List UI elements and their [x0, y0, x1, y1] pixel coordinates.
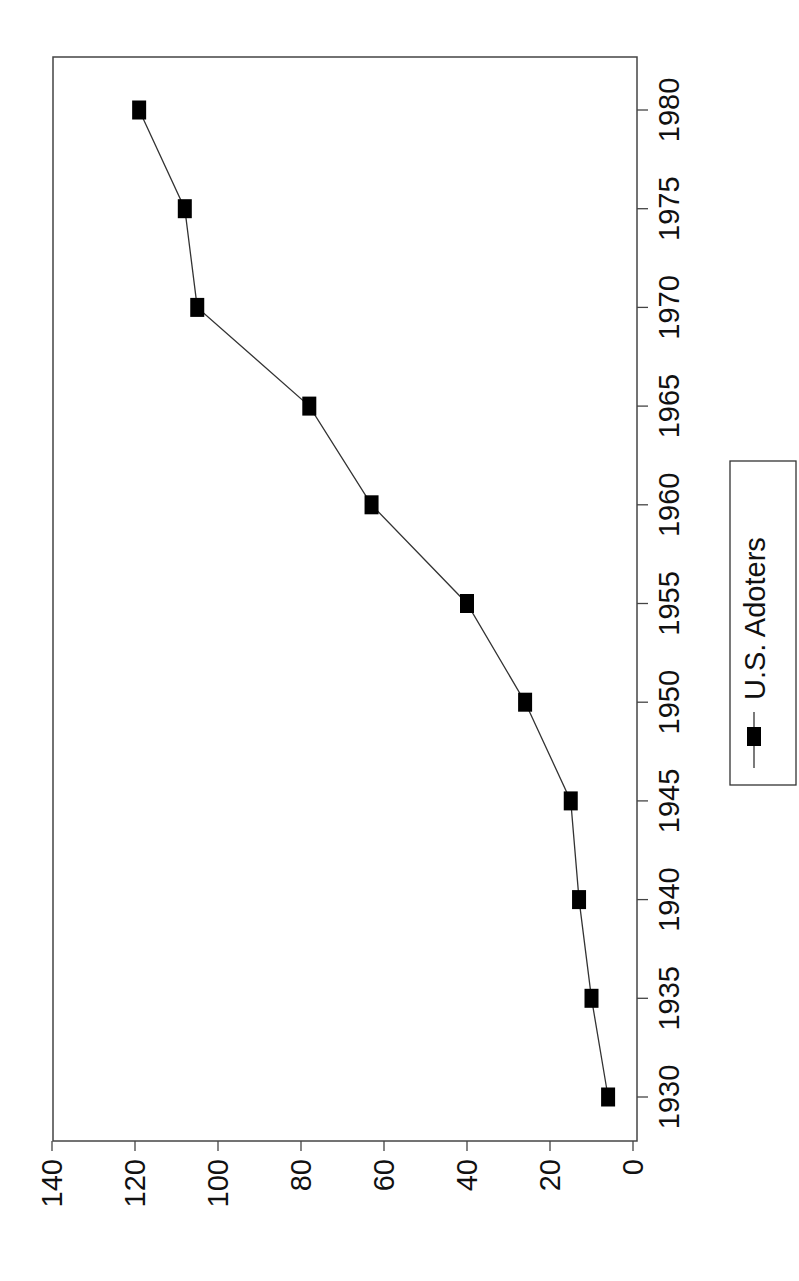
series-line	[139, 110, 608, 1097]
year-tick-label: 1980	[653, 78, 685, 143]
year-tick-label: 1960	[653, 473, 685, 538]
year-tick-label: 1935	[653, 966, 685, 1031]
data-point-square-marker	[132, 101, 146, 120]
data-point-square-marker	[460, 594, 474, 613]
year-tick-label: 1940	[653, 867, 685, 932]
year-tick-label: 1930	[653, 1065, 685, 1130]
plot-frame	[53, 57, 637, 1141]
value-tick-label: 20	[534, 1159, 566, 1191]
data-point-square-marker	[365, 495, 379, 514]
legend-label: U.S. Adoters	[739, 537, 771, 700]
data-point-square-marker	[302, 397, 316, 416]
line-chart: 020406080100120140 193019351940194519501…	[0, 0, 799, 1281]
value-tick-label: 0	[617, 1159, 649, 1175]
year-tick-label: 1975	[653, 176, 685, 241]
value-tick-label: 80	[285, 1159, 317, 1191]
data-point-square-marker	[601, 1088, 615, 1107]
value-tick-label: 100	[202, 1159, 234, 1207]
series-markers	[132, 101, 615, 1107]
data-point-square-marker	[585, 989, 599, 1008]
legend: U.S. Adoters	[730, 461, 796, 785]
year-tick-label: 1945	[653, 769, 685, 834]
year-axis: 1930193519401945195019551960196519701975…	[637, 78, 685, 1130]
data-point-square-marker	[190, 298, 204, 317]
value-tick-label: 120	[119, 1159, 151, 1207]
year-tick-label: 1950	[653, 670, 685, 735]
year-tick-label: 1955	[653, 571, 685, 636]
value-tick-label: 60	[368, 1159, 400, 1191]
value-tick-label: 40	[451, 1159, 483, 1191]
data-point-square-marker	[564, 791, 578, 810]
value-tick-label: 140	[36, 1159, 68, 1207]
legend-square-marker-icon	[747, 727, 761, 746]
data-point-square-marker	[572, 890, 586, 909]
data-point-square-marker	[518, 693, 532, 712]
year-tick-label: 1965	[653, 374, 685, 439]
data-point-square-marker	[178, 199, 192, 218]
year-tick-label: 1970	[653, 275, 685, 340]
value-axis: 020406080100120140	[36, 1141, 649, 1207]
